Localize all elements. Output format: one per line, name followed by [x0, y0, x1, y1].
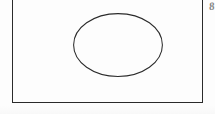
- scanned-figure-page: 8: [0, 0, 215, 114]
- ellipse-outline: [73, 13, 163, 77]
- rectangle-border: [12, 0, 203, 103]
- page-corner-mark: 8: [208, 0, 215, 12]
